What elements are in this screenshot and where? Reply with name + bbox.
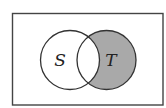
set-s-label: S [54, 50, 66, 70]
venn-diagram: S T [0, 0, 166, 108]
set-t-label: T [105, 50, 118, 70]
